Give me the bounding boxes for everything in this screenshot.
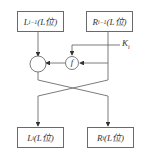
box-r-prev: Ri−1(L位) xyxy=(86,11,133,32)
key-label-sub: i xyxy=(128,44,130,50)
box-l-prev: Li−1(L位) xyxy=(17,11,64,32)
box-l-next-suffix: (L位) xyxy=(34,131,54,144)
box-l-next: Li(L位) xyxy=(17,127,64,148)
box-l-prev-sub: i−1 xyxy=(29,19,38,25)
f-function-label: f xyxy=(66,57,78,67)
box-r-prev-suffix: (L位) xyxy=(107,15,127,28)
key-label: Ki xyxy=(122,38,130,50)
box-l-prev-suffix: (L位) xyxy=(37,15,57,28)
box-r-next: Ri(L位) xyxy=(87,127,134,148)
box-r-prev-sub: i−1 xyxy=(98,19,107,25)
box-r-next-suffix: (L位) xyxy=(104,131,124,144)
xor-node xyxy=(30,56,46,72)
